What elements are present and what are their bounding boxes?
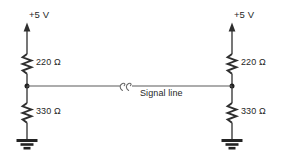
left-supply-label: +5 V bbox=[29, 10, 49, 20]
right-pullup-resistor-symbol bbox=[228, 54, 237, 74]
circuit-schematic-canvas bbox=[0, 0, 286, 159]
right-pulldown-resistor-symbol bbox=[228, 103, 237, 123]
left-pulldown-resistor-label: 330 Ω bbox=[36, 107, 61, 116]
right-pullup-resistor-label: 220 Ω bbox=[241, 58, 266, 67]
right-supply-arrow-icon bbox=[229, 23, 236, 32]
left-pulldown-resistor-symbol bbox=[23, 103, 32, 123]
left-supply-arrow-icon bbox=[24, 23, 31, 32]
signal-line-label: Signal line bbox=[140, 89, 183, 98]
circuit-diagram: +5 V 220 Ω 330 Ω +5 V 220 Ω 330 Ω Signal… bbox=[0, 0, 286, 159]
left-pullup-resistor-symbol bbox=[23, 54, 32, 74]
left-pullup-resistor-label: 220 Ω bbox=[36, 58, 61, 67]
wire-break-icon bbox=[120, 83, 131, 90]
left-ground-icon bbox=[17, 141, 38, 149]
right-supply-label: +5 V bbox=[234, 10, 254, 20]
right-pulldown-resistor-label: 330 Ω bbox=[241, 107, 266, 116]
right-ground-icon bbox=[222, 141, 243, 149]
